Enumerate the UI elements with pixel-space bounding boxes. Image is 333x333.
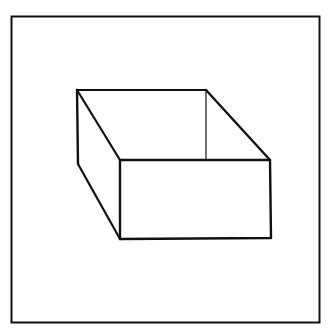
box-left-bottom-edge	[78, 164, 120, 239]
box-left-top-edge	[77, 90, 120, 160]
outer-frame	[12, 17, 320, 323]
box-left-back-edge	[77, 90, 78, 164]
box-figure	[0, 0, 333, 333]
box-right-top-edge	[206, 90, 270, 160]
box-front-face	[120, 160, 271, 239]
open-box	[77, 90, 271, 239]
